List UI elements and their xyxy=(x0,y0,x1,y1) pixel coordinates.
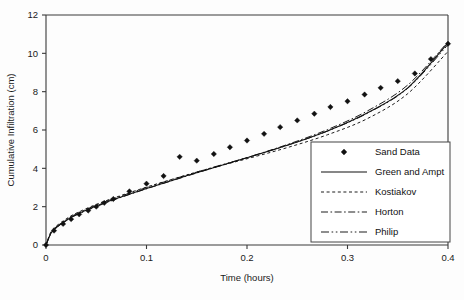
data-point-marker xyxy=(395,78,400,83)
data-point-marker xyxy=(68,216,73,221)
x-tick-label: 0.2 xyxy=(240,252,253,263)
x-axis-ticks: 00.10.20.30.4 xyxy=(43,245,454,263)
legend-label: Philip xyxy=(375,226,398,237)
legend-label: Sand Data xyxy=(375,146,421,157)
data-point-marker xyxy=(211,151,216,156)
data-point-marker xyxy=(412,71,417,76)
x-tick-label: 0.1 xyxy=(140,252,153,263)
legend-label: Green and Ampt xyxy=(375,166,445,177)
x-axis-title: Time (hours) xyxy=(220,272,274,283)
data-point-marker xyxy=(328,104,333,109)
y-tick-label: 6 xyxy=(33,124,38,135)
y-tick-label: 10 xyxy=(27,48,38,59)
data-point-marker xyxy=(244,138,249,143)
data-point-marker xyxy=(345,99,350,104)
y-axis-ticks: 024681012 xyxy=(27,9,46,250)
data-point-marker xyxy=(177,154,182,159)
chart-legend: Sand DataGreen and AmptKostiakovHortonPh… xyxy=(311,142,450,242)
data-point-marker xyxy=(227,145,232,150)
y-tick-label: 2 xyxy=(33,201,38,212)
legend-label: Kostiakov xyxy=(375,186,416,197)
data-point-marker xyxy=(312,111,317,116)
data-point-marker xyxy=(277,124,282,129)
chart-figure: 024681012 00.10.20.30.4 Time (hours) Cum… xyxy=(0,0,464,300)
y-axis-title: Cumulative Infiltration (cm) xyxy=(5,74,16,187)
data-point-marker xyxy=(378,85,383,90)
legend-label: Horton xyxy=(375,206,404,217)
y-tick-label: 12 xyxy=(27,9,38,20)
data-point-marker xyxy=(43,242,48,247)
y-tick-label: 8 xyxy=(33,86,38,97)
data-point-marker xyxy=(295,118,300,123)
y-tick-label: 4 xyxy=(33,163,38,174)
infiltration-chart: 024681012 00.10.20.30.4 Time (hours) Cum… xyxy=(0,0,464,300)
x-tick-label: 0 xyxy=(43,252,48,263)
data-point-marker xyxy=(362,92,367,97)
data-point-marker xyxy=(261,131,266,136)
x-tick-label: 0.3 xyxy=(341,252,354,263)
y-tick-label: 0 xyxy=(33,239,38,250)
data-point-marker xyxy=(144,181,149,186)
data-point-marker xyxy=(161,173,166,178)
x-tick-label: 0.4 xyxy=(441,252,454,263)
data-point-marker xyxy=(194,158,199,163)
